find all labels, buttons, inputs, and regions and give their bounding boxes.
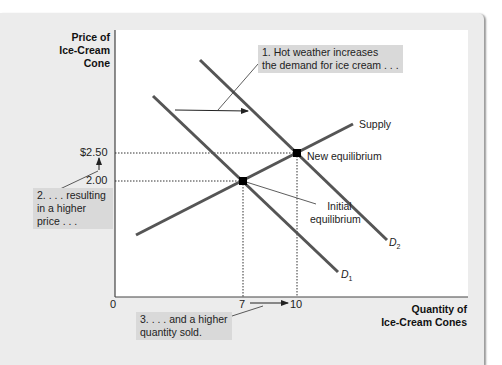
leader-annotation-1 bbox=[218, 64, 258, 110]
y-axis-title: Price of Ice-Cream Cone bbox=[40, 31, 110, 70]
annotation-line: in a higher bbox=[37, 202, 109, 215]
initial-equilibrium-line: equilibrium bbox=[310, 213, 361, 226]
y-axis-title-line: Price of bbox=[40, 31, 110, 44]
leader-annotation-3 bbox=[232, 306, 263, 316]
annotation-line: 3. . . . and a higher bbox=[140, 313, 228, 326]
annotation-higher-price: 2. . . . resulting in a higher price . .… bbox=[33, 188, 113, 229]
d2-label: D2 bbox=[389, 236, 401, 253]
new-equilibrium-point bbox=[293, 149, 301, 157]
d2-label-letter: D bbox=[389, 236, 397, 248]
annotation-demand-increase: 1. Hot weather increases the demand for … bbox=[258, 45, 403, 73]
x-tick-0: 0 bbox=[110, 298, 116, 311]
x-tick-10: 10 bbox=[290, 298, 302, 311]
annotation-line: 1. Hot weather increases bbox=[262, 46, 399, 59]
annotation-line: 2. . . . resulting bbox=[37, 189, 109, 202]
x-tick-7: 7 bbox=[239, 298, 245, 311]
d1-label-letter: D bbox=[341, 268, 349, 280]
supply-label: Supply bbox=[359, 118, 391, 131]
d2-label-sub: 2 bbox=[397, 243, 401, 250]
annotation-line: the demand for ice cream . . . bbox=[262, 59, 399, 72]
y-axis-title-line: Ice-Cream bbox=[40, 44, 110, 57]
annotation-higher-quantity: 3. . . . and a higher quantity sold. bbox=[136, 312, 232, 340]
annotation-line: price . . . bbox=[37, 215, 109, 228]
d1-label: D1 bbox=[341, 268, 353, 285]
x-axis-title-line: Quantity of bbox=[360, 303, 467, 316]
annotation-line: quantity sold. bbox=[140, 326, 228, 339]
initial-equilibrium-label: Initial equilibrium bbox=[318, 200, 361, 226]
y-axis-title-line: Cone bbox=[40, 57, 110, 70]
y-tick-250: $2.50 bbox=[80, 146, 108, 159]
initial-equilibrium-line: Initial bbox=[318, 200, 361, 213]
d1-label-sub: 1 bbox=[349, 275, 353, 282]
x-axis-title-line: Ice-Cream Cones bbox=[360, 316, 467, 329]
y-tick-200: 2.00 bbox=[86, 174, 107, 187]
demand-shift-arrow bbox=[175, 110, 248, 111]
initial-equilibrium-point bbox=[239, 177, 247, 185]
new-equilibrium-label: New equilibrium bbox=[307, 150, 382, 163]
x-axis-title: Quantity of Ice-Cream Cones bbox=[360, 303, 467, 329]
